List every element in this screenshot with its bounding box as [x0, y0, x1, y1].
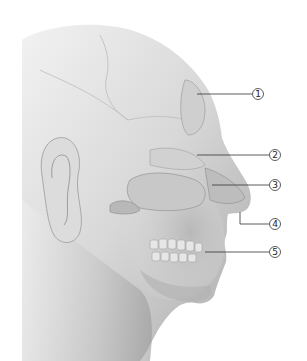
leader-line-4: [240, 212, 269, 224]
callout-number-1: 1: [255, 89, 261, 99]
callout-3: 3: [270, 180, 281, 191]
callout-number-4: 4: [272, 219, 278, 229]
callout-1: 1: [253, 89, 264, 100]
callout-number-2: 2: [272, 150, 278, 160]
callouts: 1 2 3 4 5: [253, 89, 281, 258]
callout-number-5: 5: [272, 247, 278, 257]
callout-2: 2: [270, 150, 281, 161]
callout-4: 4: [270, 219, 281, 230]
callout-number-3: 3: [272, 180, 278, 190]
anatomical-head-illustration: 1 2 3 4 5: [0, 0, 307, 361]
callout-5: 5: [270, 247, 281, 258]
